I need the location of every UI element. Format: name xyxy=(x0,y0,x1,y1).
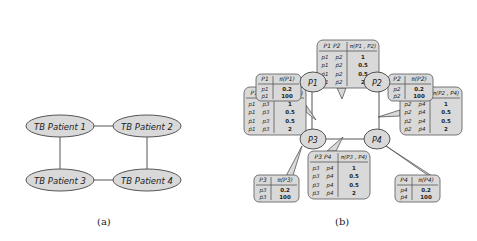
node-label: P3 xyxy=(308,136,318,145)
row-val: 1 xyxy=(288,101,292,107)
unary-table-P4: P4π(P4)p40.2p̄4100 xyxy=(386,146,440,202)
row-var-b: p2 xyxy=(335,71,343,78)
row-var-a: p2 xyxy=(404,101,412,108)
header-pi: π(P2) xyxy=(411,75,427,82)
callout-tail xyxy=(378,110,400,117)
row-val: 1 xyxy=(444,101,448,107)
row-val: 0.5 xyxy=(441,118,451,124)
node-label: TB Patient 2 xyxy=(121,122,173,132)
node-P4: P4 xyxy=(364,129,390,149)
row-val: 0.2 xyxy=(280,187,290,193)
row-val: 100 xyxy=(413,93,425,99)
row-var-b: p3 xyxy=(262,118,270,125)
row-val: 2 xyxy=(444,126,448,132)
row-var: p̄2 xyxy=(393,93,401,100)
header-pi: π(P3) xyxy=(277,176,293,183)
header-vars: P3 P4 xyxy=(315,153,332,160)
row-var-a: p̄3 xyxy=(312,182,320,189)
header-var: P1 xyxy=(261,75,268,82)
node-n1: TB Patient 1 xyxy=(26,115,94,137)
row-var-a: p̄2 xyxy=(404,126,412,133)
header-pi: π(P1) xyxy=(279,75,295,82)
node-label: P4 xyxy=(372,136,382,145)
node-P3: P3 xyxy=(300,129,326,149)
row-var-b: p4 xyxy=(326,182,334,189)
row-var-a: p3 xyxy=(312,165,320,172)
row-var-b: p̄4 xyxy=(418,126,426,133)
row-var: p1 xyxy=(261,86,269,93)
row-val: 0.5 xyxy=(285,118,295,124)
row-val: 100 xyxy=(420,194,432,200)
node-n3: TB Patient 3 xyxy=(26,169,94,191)
row-var-a: p̄1 xyxy=(248,118,256,125)
caption-a: (a) xyxy=(97,216,111,227)
row-var: p2 xyxy=(393,86,401,93)
row-val: 0.5 xyxy=(349,182,359,188)
row-var-a: p̄1 xyxy=(248,126,256,133)
header-var: P2 xyxy=(393,75,401,82)
node-label: P2 xyxy=(372,79,382,88)
caption-b: (b) xyxy=(335,216,349,227)
row-var-a: p̄2 xyxy=(404,118,412,125)
row-val: 0.5 xyxy=(358,62,368,68)
row-var-b: p̄3 xyxy=(262,109,270,116)
node-P2: P2 xyxy=(364,72,390,92)
row-val: 100 xyxy=(281,93,293,99)
row-val: 0.5 xyxy=(349,173,359,179)
row-var: p̄4 xyxy=(400,194,408,201)
row-var-a: p1 xyxy=(248,101,256,108)
node-label: TB Patient 3 xyxy=(34,176,86,186)
row-val: 0.5 xyxy=(441,109,451,115)
unary-table-P1: P1π(P1)p10.2p̄1100 xyxy=(256,74,303,101)
node-n2: TB Patient 2 xyxy=(113,115,181,137)
row-val: 1 xyxy=(352,165,356,171)
header-pi: π(P4) xyxy=(418,176,434,183)
header-pi: π(P1 , P2) xyxy=(350,43,376,49)
callout-tail xyxy=(386,146,434,177)
row-var-b: p̄4 xyxy=(418,109,426,116)
row-var: p4 xyxy=(400,187,408,194)
row-val: 0.2 xyxy=(414,86,424,92)
node-label: TB Patient 4 xyxy=(121,176,173,186)
header-var: P4 xyxy=(400,176,408,183)
row-var-b: p4 xyxy=(418,101,426,108)
row-var-a: p1 xyxy=(321,62,329,69)
diagram-canvas: TB Patient 1TB Patient 2TB Patient 3TB P… xyxy=(0,0,477,241)
node-label: P1 xyxy=(308,79,318,88)
row-var-b: p2 xyxy=(335,54,343,61)
node-label: TB Patient 1 xyxy=(34,122,86,132)
row-val: 0.2 xyxy=(282,86,292,92)
row-val: 2 xyxy=(288,126,292,132)
row-val: 0.5 xyxy=(285,109,295,115)
row-val: 1 xyxy=(361,54,365,60)
row-var-b: p3 xyxy=(262,101,270,108)
unary-table-P2: P2π(P2)p20.2p̄2100 xyxy=(384,74,433,101)
node-n4: TB Patient 4 xyxy=(113,169,181,191)
row-var-a: p3 xyxy=(312,173,320,180)
row-var-b: p4 xyxy=(326,165,334,172)
header-pi: π(P3 , P4) xyxy=(341,154,367,160)
unary-table-P3: P3π(P3)p30.2p̄3100 xyxy=(254,146,302,202)
row-var-b: p̄2 xyxy=(335,79,343,86)
row-var-b: p̄4 xyxy=(326,173,334,180)
row-var-b: p̄2 xyxy=(335,62,343,69)
row-var-b: p̄3 xyxy=(262,126,270,133)
header-pi: π(P2 , P4) xyxy=(433,90,459,96)
row-var-a: p1 xyxy=(321,54,329,61)
row-val: 100 xyxy=(279,194,291,200)
row-var-a: p2 xyxy=(404,109,412,116)
row-var: p̄3 xyxy=(259,194,267,201)
node-P1: P1 xyxy=(300,72,326,92)
row-var-b: p4 xyxy=(418,118,426,125)
header-var: P3 xyxy=(259,176,267,183)
row-var: p̄1 xyxy=(261,93,269,100)
row-val: 0.2 xyxy=(421,187,431,193)
header-vars: P1 P2 xyxy=(324,42,341,49)
row-var-a: p̄3 xyxy=(312,190,320,197)
row-var-a: p1 xyxy=(248,109,256,116)
row-var-b: p̄4 xyxy=(326,190,334,197)
row-val: 2 xyxy=(352,190,356,196)
callout-tail xyxy=(287,146,303,177)
row-var: p3 xyxy=(259,187,267,194)
